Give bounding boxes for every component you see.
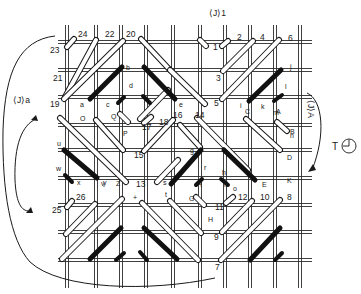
number-label: 23 <box>50 45 60 55</box>
letter-label: o <box>233 185 237 192</box>
number-label: 1 <box>213 42 218 52</box>
number-label: 14 <box>195 110 205 120</box>
letter-label: K <box>287 177 292 184</box>
number-label: 12 <box>238 192 248 202</box>
letter-label: O <box>80 115 86 122</box>
open-stitch <box>222 41 228 46</box>
arrowhead-icon <box>31 115 38 121</box>
filled-stitch <box>224 150 255 180</box>
number-label: 25 <box>52 205 62 215</box>
number-label: 20 <box>126 29 136 39</box>
number-label: 5 <box>214 98 219 108</box>
letter-label: Q <box>111 113 117 121</box>
number-label: 21 <box>53 73 63 83</box>
label-clock-T: T <box>332 141 338 152</box>
letter-label: j <box>289 63 292 71</box>
label-right-jA: ⟨J⟩A <box>306 100 316 118</box>
open-stitch <box>222 40 279 99</box>
filled-stitch <box>250 228 280 260</box>
number-label: 10 <box>260 192 270 202</box>
letter-label: c <box>106 101 110 108</box>
number-label: 18 <box>159 117 169 127</box>
label-left-ja: ⟨J⟩a <box>13 95 30 105</box>
number-label: 8 <box>287 192 292 202</box>
number-label: 17 <box>142 122 152 132</box>
number-label: 26 <box>76 192 86 202</box>
clock-icon <box>342 139 356 153</box>
open-stitches <box>60 39 287 260</box>
open-stitch <box>197 118 248 170</box>
number-label: 9 <box>214 232 219 242</box>
letter-label: H <box>208 216 213 223</box>
letter-label: A <box>276 108 281 115</box>
letter-label: P <box>123 130 128 137</box>
number-label: 7 <box>215 262 220 272</box>
letter-label: e <box>179 101 183 108</box>
letter-label: y <box>103 179 107 187</box>
letter-label: Z <box>116 180 121 187</box>
letter-label: w <box>55 165 62 172</box>
letter-label: g <box>190 147 194 155</box>
letter-label: p <box>224 179 228 187</box>
open-stitch <box>200 40 206 46</box>
number-label: 15 <box>134 150 144 160</box>
letter-label: a <box>80 101 84 108</box>
number-label: 19 <box>50 99 60 109</box>
filled-stitch <box>118 97 124 103</box>
letter-label: l <box>285 83 287 90</box>
open-stitch <box>221 200 280 260</box>
number-label: 3 <box>216 73 221 83</box>
letter-label: d <box>129 82 133 89</box>
number-label: 2 <box>237 32 242 42</box>
open-stitch <box>67 201 72 207</box>
number-label: 22 <box>105 29 115 39</box>
label-top-j1: ⟨J⟩1 <box>209 8 226 18</box>
stitch-diagram: 2422202321192461351817161415132625121081… <box>0 0 361 294</box>
number-label: 24 <box>78 29 88 39</box>
letter-label: s <box>163 179 167 186</box>
letter-label: x <box>77 179 81 186</box>
left-inner-arrow <box>15 119 36 211</box>
open-stitch <box>96 120 123 150</box>
open-stitch <box>226 197 233 203</box>
letter-label: r <box>204 164 207 171</box>
letter-label: f <box>222 146 224 153</box>
letter-label: C <box>245 108 250 115</box>
letter-label: B <box>290 128 295 135</box>
number-label: 11 <box>215 202 224 212</box>
letter-label: k <box>261 103 265 110</box>
letter-label: t <box>165 191 167 198</box>
open-stitch <box>120 114 128 122</box>
number-label: 6 <box>288 33 293 43</box>
number-label: 13 <box>136 179 146 189</box>
letter-label: i <box>240 102 242 109</box>
letter-label: G <box>189 195 194 202</box>
letter-label: q <box>198 179 202 187</box>
letter-label: D <box>287 154 292 161</box>
filled-stitch <box>171 150 201 184</box>
letter-label: h <box>222 169 226 176</box>
arrowhead-icon <box>308 164 316 172</box>
arrowhead-icon <box>26 207 33 213</box>
letter-label: b <box>126 64 130 71</box>
number-label: 16 <box>173 110 183 120</box>
number-label: 4 <box>260 32 265 42</box>
letter-label: + <box>133 194 137 201</box>
letter-label: E <box>262 181 267 188</box>
open-stitch <box>180 125 200 147</box>
letter-label: u <box>57 140 61 147</box>
